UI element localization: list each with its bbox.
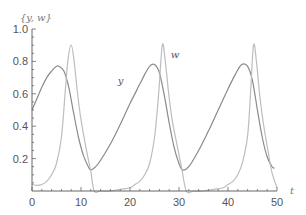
plot-curves — [32, 44, 277, 193]
y-axis: 0.20.40.60.81.0 {y, w} — [13, 12, 52, 191]
x-tick-label: 0 — [29, 196, 35, 208]
y-tick-label: 1.0 — [13, 23, 28, 35]
x-axis: 01020304050 t — [29, 185, 295, 208]
x-axis-ticks: 01020304050 — [29, 187, 283, 208]
series-y-line — [32, 64, 275, 170]
x-tick-label: 40 — [222, 196, 234, 208]
curve-label-w: w — [171, 49, 180, 60]
y-tick-label: 0.2 — [13, 153, 28, 165]
x-tick-label: 50 — [271, 196, 283, 208]
x-axis-title: t — [290, 185, 295, 196]
x-tick-label: 20 — [124, 196, 136, 208]
curve-label-y: y — [117, 75, 124, 86]
x-tick-label: 30 — [173, 196, 185, 208]
y-tick-label: 0.4 — [13, 120, 28, 132]
y-tick-label: 0.6 — [13, 88, 28, 100]
y-tick-label: 0.8 — [13, 55, 28, 67]
x-tick-label: 10 — [75, 196, 87, 208]
y-axis-ticks: 0.20.40.60.81.0 — [13, 23, 36, 183]
line-chart: 0.20.40.60.81.0 {y, w} 01020304050 t yw — [0, 0, 306, 215]
y-axis-title: {y, w} — [20, 12, 52, 23]
